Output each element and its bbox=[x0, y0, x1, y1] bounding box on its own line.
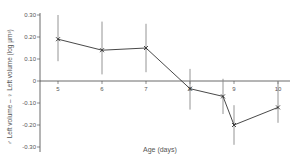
x-tick-label: 7 bbox=[144, 86, 148, 92]
x-tick-label: 9 bbox=[232, 86, 236, 92]
y-tick-label: 0.20 bbox=[24, 34, 36, 40]
y-tick-label: 0.10 bbox=[24, 56, 36, 62]
x-tick-label: 6 bbox=[100, 86, 104, 92]
y-axis-label: ♂ Left volume – ♀ Left volume (log µm³) bbox=[6, 29, 14, 145]
data-series bbox=[56, 37, 280, 127]
y-tick-label: 0.30 bbox=[24, 12, 36, 18]
x-axis-label: Age (days) bbox=[143, 146, 177, 154]
y-tick-label: -0.20 bbox=[22, 122, 36, 128]
line-chart: 0.300.200.100-0.10-0.20-0.305678910 Age … bbox=[0, 0, 294, 162]
y-tick-label: -0.30 bbox=[22, 144, 36, 150]
y-tick-label: -0.10 bbox=[22, 100, 36, 106]
series-line bbox=[58, 39, 278, 125]
axes: 0.300.200.100-0.10-0.20-0.305678910 bbox=[22, 12, 290, 152]
error-bars bbox=[58, 15, 278, 145]
y-tick-label: 0 bbox=[33, 78, 37, 84]
x-tick-label: 5 bbox=[56, 86, 60, 92]
